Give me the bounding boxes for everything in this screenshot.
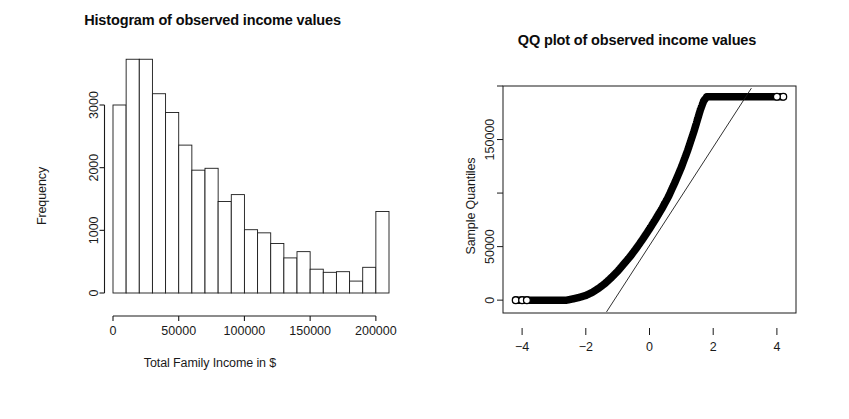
- qqplot-x-tick-label: 2: [710, 340, 717, 354]
- qqplot-x-tick-label: 4: [773, 340, 780, 354]
- qqplot-x-axis: −4−2024: [515, 328, 780, 354]
- qqplot-y-tick-label: 50000: [483, 229, 497, 264]
- histogram-bar: [310, 269, 323, 293]
- histogram-title: Histogram of observed income values: [0, 12, 425, 28]
- histogram-y-axis-label: Frequency: [35, 136, 49, 256]
- histogram-x-axis-label: Total Family Income in $: [60, 356, 360, 370]
- histogram-y-tick-label: 3000: [87, 91, 101, 119]
- qqplot-y-tick-label: 0: [483, 297, 497, 304]
- histogram-x-tick-label: 150000: [289, 324, 331, 338]
- qqplot-y-axis-label: Sample Quantiles: [464, 116, 478, 296]
- histogram-bar: [376, 212, 389, 293]
- histogram-bar: [297, 252, 310, 293]
- histogram-bar: [336, 272, 349, 293]
- qqplot-point-cloud: [516, 97, 784, 300]
- histogram-bar: [139, 59, 152, 293]
- histogram-bar: [205, 168, 218, 293]
- histogram-bar: [363, 267, 376, 293]
- histogram-y-axis: 0100020003000: [87, 91, 105, 296]
- histogram-bar: [192, 170, 205, 293]
- histogram-panel: Histogram of observed income values Freq…: [0, 0, 425, 419]
- qqplot-y-tick-label: 150000: [483, 119, 497, 161]
- qqplot-frame: [503, 86, 796, 313]
- qqplot-outlier-point: [523, 297, 530, 304]
- histogram-bar: [258, 233, 271, 293]
- histogram-bar: [179, 145, 192, 293]
- histogram-bar: [152, 94, 165, 293]
- qqplot-title: QQ plot of observed income values: [425, 32, 849, 48]
- histogram-x-tick-label: 100000: [224, 324, 266, 338]
- histogram-bar: [284, 258, 297, 293]
- histogram-bar: [126, 59, 139, 293]
- histogram-bar: [271, 243, 284, 293]
- histogram-bars: [113, 59, 389, 293]
- histogram-x-tick-label: 50000: [161, 324, 196, 338]
- qqplot-data-points: [512, 93, 786, 303]
- qqplot-reference-line: [607, 88, 752, 312]
- histogram-bar: [113, 105, 126, 293]
- qqplot-x-tick-label: 0: [646, 340, 653, 354]
- histogram-y-tick-label: 1000: [87, 216, 101, 244]
- histogram-bar: [231, 195, 244, 293]
- histogram-bar: [244, 230, 257, 293]
- qqplot-panel: QQ plot of observed income values Sample…: [425, 0, 849, 419]
- histogram-x-axis: 050000100000150000200000: [110, 316, 397, 338]
- qqplot-qqline: [607, 88, 752, 312]
- qqplot-box-frame: [503, 86, 796, 313]
- qqplot-plot-area: 050000150000 −4−2024: [425, 0, 849, 419]
- histogram-x-tick-label: 200000: [355, 324, 397, 338]
- qqplot-y-axis: 050000150000: [483, 86, 503, 304]
- histogram-bar: [218, 202, 231, 293]
- histogram-bar: [166, 113, 179, 293]
- histogram-x-tick-label: 0: [110, 324, 117, 338]
- qqplot-x-tick-label: −4: [515, 340, 529, 354]
- histogram-y-tick-label: 2000: [87, 154, 101, 182]
- histogram-bar: [350, 281, 363, 293]
- histogram-bar: [323, 272, 336, 293]
- qqplot-x-tick-label: −2: [579, 340, 593, 354]
- qqplot-outlier-point: [773, 93, 780, 100]
- histogram-y-tick-label: 0: [87, 289, 101, 296]
